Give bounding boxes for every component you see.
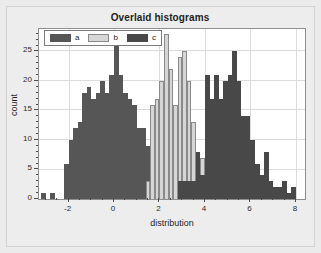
y-axis-tick-label: 10 [12,134,32,143]
figure: Overlaid histograms -2024680510152025 di… [0,0,321,253]
y-axis-tick [34,198,38,199]
y-axis-minor-tick [36,33,38,34]
y-axis-tick-label: 25 [12,45,32,54]
chart-title: Overlaid histograms [40,12,280,23]
x-axis-tick [249,198,250,202]
y-axis-minor-tick [36,92,38,93]
y-axis-label: count [9,75,19,135]
legend-label-a: a [75,34,79,42]
y-axis-minor-tick [36,127,38,128]
y-axis-tick [34,80,38,81]
x-axis-minor-tick [124,198,125,200]
y-axis-minor-tick [36,163,38,164]
x-axis-minor-tick [170,198,171,200]
histogram-bar [50,193,55,199]
x-axis-minor-tick [261,198,262,200]
x-axis-tick [295,198,296,202]
legend-swatch-b [88,34,109,42]
y-axis-minor-tick [36,56,38,57]
x-axis-minor-tick [272,198,273,200]
y-axis-minor-tick [36,98,38,99]
y-axis-minor-tick [36,186,38,187]
y-axis-minor-tick [36,74,38,75]
y-axis-tick [34,139,38,140]
y-axis-minor-tick [36,39,38,40]
y-axis-minor-tick [36,115,38,116]
x-axis-minor-tick [45,198,46,200]
bars-layer [39,29,305,199]
x-axis-tick [204,198,205,202]
y-axis-minor-tick [36,86,38,87]
x-axis-tick [68,198,69,202]
y-axis-minor-tick [36,68,38,69]
x-axis-tick [158,198,159,202]
y-axis-minor-tick [36,151,38,152]
y-axis-minor-tick [36,157,38,158]
x-axis-minor-tick [238,198,239,200]
legend-label-c: c [152,34,156,42]
x-axis-tick [113,198,114,202]
legend-swatch-a [50,34,71,42]
y-axis-tick [34,109,38,110]
x-axis-minor-tick [227,198,228,200]
x-axis-minor-tick [102,198,103,200]
y-axis-tick-label: 5 [12,163,32,172]
y-axis-tick [34,50,38,51]
x-axis-tick-label: 6 [238,204,260,213]
y-axis-minor-tick [36,133,38,134]
x-axis-minor-tick [215,198,216,200]
x-axis-minor-tick [193,198,194,200]
y-axis-tick-label: 0 [12,193,32,202]
x-axis-tick-label: 0 [102,204,124,213]
y-axis-minor-tick [36,192,38,193]
x-axis-minor-tick [90,198,91,200]
x-axis-minor-tick [136,198,137,200]
y-axis-minor-tick [36,121,38,122]
x-axis-tick-label: 4 [193,204,215,213]
y-axis-minor-tick [36,104,38,105]
legend[interactable]: abc [44,30,162,46]
y-axis-minor-tick [36,45,38,46]
legend-entry-c[interactable]: c [127,34,156,42]
x-axis-minor-tick [56,198,57,200]
legend-label-b: b [113,34,117,42]
y-axis-minor-tick [36,145,38,146]
legend-swatch-c [127,34,148,42]
plot-area [38,28,306,200]
y-axis-minor-tick [36,180,38,181]
x-axis-tick-label: 8 [284,204,306,213]
x-axis-minor-tick [79,198,80,200]
x-axis-minor-tick [284,198,285,200]
legend-entry-b[interactable]: b [88,34,117,42]
x-axis-minor-tick [147,198,148,200]
y-axis-minor-tick [36,174,38,175]
legend-entry-a[interactable]: a [50,34,79,42]
x-axis-minor-tick [181,198,182,200]
x-axis-label: distribution [38,218,306,228]
x-axis-tick-label: -2 [57,204,79,213]
y-axis-minor-tick [36,62,38,63]
y-axis-tick [34,168,38,169]
x-axis-tick-label: 2 [147,204,169,213]
